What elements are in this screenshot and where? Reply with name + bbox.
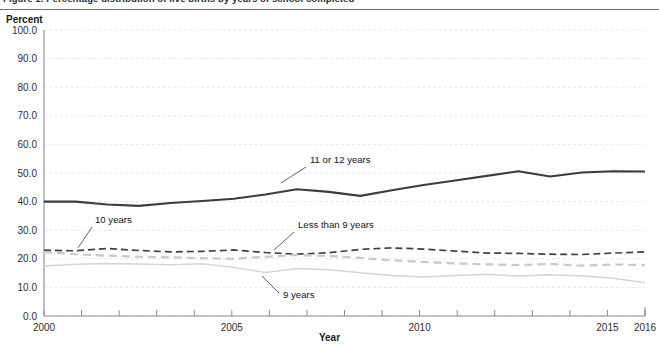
y-tick-label: 70.0 bbox=[18, 110, 38, 121]
y-tick-labels-group: 0.010.020.030.040.050.060.070.080.090.01… bbox=[12, 25, 37, 322]
annotation-leader-line bbox=[262, 276, 279, 293]
series-line bbox=[44, 263, 645, 282]
gridlines-group bbox=[44, 30, 645, 316]
annotation-leader-line bbox=[78, 227, 92, 248]
y-tick-label: 50.0 bbox=[18, 168, 38, 179]
y-tick-label: 30.0 bbox=[18, 225, 38, 236]
series-line bbox=[44, 248, 645, 255]
annotation-leader-line bbox=[281, 167, 306, 183]
annotation-leader-line bbox=[274, 232, 294, 250]
series-label: 10 years bbox=[95, 214, 132, 225]
y-tick-label: 20.0 bbox=[18, 253, 38, 264]
y-tick-label: 0.0 bbox=[23, 311, 37, 322]
y-tick-label: 100.0 bbox=[12, 25, 37, 36]
line-chart-plot: 0.010.020.030.040.050.060.070.080.090.01… bbox=[0, 0, 659, 348]
series-label: Less than 9 years bbox=[298, 219, 374, 230]
x-tick-label: 2010 bbox=[409, 322, 432, 333]
y-tick-label: 40.0 bbox=[18, 196, 38, 207]
series-label: 11 or 12 years bbox=[310, 154, 371, 165]
x-tick-marks-group bbox=[44, 310, 645, 316]
y-tick-label: 10.0 bbox=[18, 282, 38, 293]
y-tick-label: 90.0 bbox=[18, 53, 38, 64]
y-tick-label: 80.0 bbox=[18, 82, 38, 93]
x-tick-label: 2016 bbox=[634, 322, 657, 333]
y-tick-label: 60.0 bbox=[18, 139, 38, 150]
x-tick-label: 2000 bbox=[33, 322, 56, 333]
axis-lines-group bbox=[44, 30, 645, 316]
series-line bbox=[44, 171, 645, 206]
series-label: 9 years bbox=[283, 289, 315, 300]
x-tick-label: 2005 bbox=[221, 322, 244, 333]
x-tick-labels-group: 20002005201020152016 bbox=[33, 322, 657, 333]
x-tick-label: 2015 bbox=[596, 322, 619, 333]
figure-container: Figure 1. Percentage distribution of liv… bbox=[0, 0, 659, 348]
series-annotations-group: 11 or 12 yearsLess than 9 years10 years9… bbox=[78, 154, 374, 300]
